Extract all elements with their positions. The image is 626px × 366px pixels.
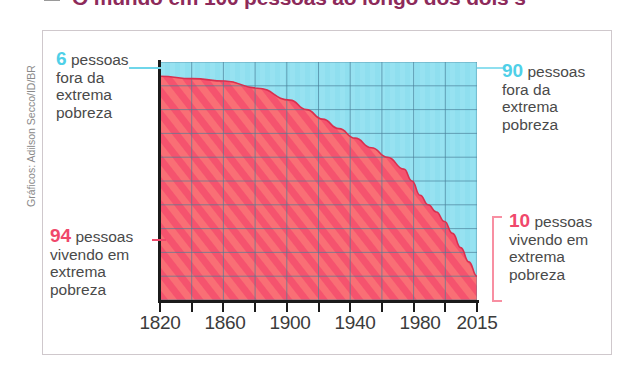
annotation-top-right-line-1: fora da xyxy=(502,81,585,99)
x-axis-tick xyxy=(444,303,446,312)
x-axis-tick xyxy=(349,303,351,312)
connector-top-left xyxy=(129,67,161,69)
annotation-bottom-left-number: 94 xyxy=(50,225,71,246)
annotation-bottom-right-line-3: pobreza xyxy=(509,266,592,284)
annotation-bottom-right-text-0: pessoas xyxy=(534,213,592,230)
connector-bottom-left xyxy=(152,239,166,241)
x-axis-tick xyxy=(318,303,320,312)
x-axis-label-1940: 1940 xyxy=(320,312,390,334)
annotation-bottom-left: 94 pessoas vivendo em extrema pobreza xyxy=(50,227,133,298)
annotation-bottom-left-text-0: pessoas xyxy=(75,228,133,245)
annotation-top-left-line-1: fora da xyxy=(56,69,129,87)
annotation-bottom-left-line-0: 94 pessoas xyxy=(50,227,133,246)
page-title: O mundo em 100 pessoas ao longo dos dois… xyxy=(72,0,526,10)
annotation-top-left-line-2: extrema xyxy=(56,86,129,104)
annotation-bottom-right-number: 10 xyxy=(509,210,530,231)
connector-top-right xyxy=(477,67,505,69)
x-axis-tick xyxy=(159,303,161,312)
annotation-top-left-number: 6 xyxy=(56,48,67,69)
x-axis-label-2015: 2015 xyxy=(442,312,512,334)
x-axis-tick xyxy=(191,303,193,312)
annotation-top-left-line-3: pobreza xyxy=(56,104,129,122)
title-bullet-icon xyxy=(44,0,60,1)
x-axis-label-1860: 1860 xyxy=(190,312,260,334)
annotation-bottom-right-line-1: vivendo em xyxy=(509,231,592,249)
x-axis-label-1820: 1820 xyxy=(125,312,195,334)
annotation-bottom-right-line-0: 10 pessoas xyxy=(509,212,592,231)
annotation-bottom-left-line-2: extrema xyxy=(50,263,133,281)
annotation-top-right-text-0: pessoas xyxy=(527,63,585,80)
x-axis-tick xyxy=(222,303,224,312)
image-credit: Gráficos: Adilson Secco/ID/BR xyxy=(25,21,37,251)
chart-plot-area xyxy=(160,62,477,300)
annotation-top-right-line-3: pobreza xyxy=(502,116,585,134)
x-axis-tick xyxy=(413,303,415,312)
annotation-bottom-left-line-3: pobreza xyxy=(50,281,133,299)
y-axis xyxy=(158,60,161,302)
annotation-top-right-line-0: 90 pessoas xyxy=(502,62,585,81)
annotation-top-right-line-2: extrema xyxy=(502,98,585,116)
annotation-bottom-right-line-2: extrema xyxy=(509,248,592,266)
area-chart-svg xyxy=(160,62,477,300)
annotation-bottom-left-line-1: vivendo em xyxy=(50,246,133,264)
annotation-top-left-text-0: pessoas xyxy=(71,51,129,68)
annotation-top-right: 90 pessoas fora da extrema pobreza xyxy=(502,62,585,133)
x-axis-tick xyxy=(381,303,383,312)
title-strip: O mundo em 100 pessoas ao longo dos dois… xyxy=(0,0,626,20)
x-axis-tick xyxy=(286,303,288,312)
annotation-top-left: 6 pessoas fora da extrema pobreza xyxy=(56,50,129,121)
x-axis-tick xyxy=(476,303,478,312)
x-axis-label-1900: 1900 xyxy=(255,312,325,334)
connector-bottom-right xyxy=(492,216,502,302)
annotation-top-right-number: 90 xyxy=(502,60,523,81)
annotation-top-left-line-0: 6 pessoas xyxy=(56,50,129,69)
x-axis-tick xyxy=(254,303,256,312)
annotation-bottom-right: 10 pessoas vivendo em extrema pobreza xyxy=(509,212,592,283)
